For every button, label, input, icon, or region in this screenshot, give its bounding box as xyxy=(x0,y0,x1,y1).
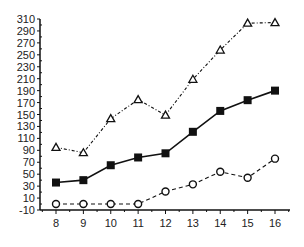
triangle-marker xyxy=(52,143,60,150)
square-marker xyxy=(162,149,170,157)
y-tick-label: 110 xyxy=(17,132,35,144)
series-line xyxy=(56,23,275,153)
x-tick-label: 15 xyxy=(242,217,254,229)
x-tick-label: 11 xyxy=(132,217,143,229)
square-marker xyxy=(107,161,115,169)
y-tick-label: 10 xyxy=(23,192,35,204)
x-tick-label: 9 xyxy=(80,217,86,229)
series-line xyxy=(56,159,275,204)
triangle-marker xyxy=(107,115,115,122)
y-tick-label: 210 xyxy=(17,73,35,85)
circle-marker xyxy=(107,201,114,208)
y-tick-label: 170 xyxy=(17,97,35,109)
y-tick-label: 230 xyxy=(17,61,35,73)
y-tick-label: 190 xyxy=(17,85,35,97)
triangle-marker xyxy=(162,111,170,118)
circle-marker xyxy=(80,201,87,208)
square-marker xyxy=(79,176,87,184)
square-series xyxy=(52,87,279,187)
x-tick-label: 12 xyxy=(159,217,171,229)
x-tick-label: 13 xyxy=(187,217,199,229)
triangle-marker xyxy=(244,19,252,26)
y-tick-label: 270 xyxy=(17,37,35,49)
circle-marker xyxy=(217,168,224,175)
square-marker xyxy=(271,87,279,95)
circle-marker xyxy=(162,188,169,195)
x-tick-label: 16 xyxy=(269,217,281,229)
series-line xyxy=(56,91,275,183)
y-tick-label: 310 xyxy=(17,13,35,25)
triangle-marker xyxy=(134,96,142,103)
line-chart: -101030507090110130150170190210230250270… xyxy=(0,0,304,247)
triangle-series xyxy=(52,19,279,156)
y-tick-label: 30 xyxy=(23,180,35,192)
y-tick-label: 50 xyxy=(23,168,35,180)
y-tick-label: -10 xyxy=(19,204,35,216)
square-marker xyxy=(52,179,60,187)
y-tick-label: 250 xyxy=(17,49,35,61)
circle-marker xyxy=(189,181,196,188)
circle-marker xyxy=(53,201,60,208)
y-tick-label: 290 xyxy=(17,25,35,37)
y-tick-label: 70 xyxy=(23,156,35,168)
y-tick-label: 150 xyxy=(17,109,35,121)
square-marker xyxy=(216,107,224,115)
x-tick-label: 10 xyxy=(105,217,117,229)
y-tick-label: 130 xyxy=(17,120,35,132)
series-group xyxy=(52,19,279,208)
circle-marker xyxy=(272,155,279,162)
x-tick-label: 8 xyxy=(53,217,59,229)
y-tick-label: 90 xyxy=(23,144,35,156)
circle-marker xyxy=(244,174,251,181)
square-marker xyxy=(189,128,197,136)
triangle-marker xyxy=(271,19,279,26)
square-marker xyxy=(244,96,252,104)
circle-marker xyxy=(135,201,142,208)
x-tick-label: 14 xyxy=(214,217,226,229)
square-marker xyxy=(134,153,142,161)
